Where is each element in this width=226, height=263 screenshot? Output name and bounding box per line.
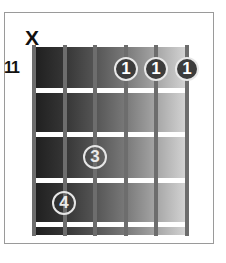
finger-dot-1: 1	[175, 57, 199, 81]
string-3	[93, 45, 97, 236]
fret-line-4	[33, 222, 189, 227]
finger-label: 3	[90, 147, 99, 167]
string-1	[32, 45, 36, 236]
finger-label: 1	[182, 59, 191, 79]
fret-line-3	[33, 178, 189, 183]
finger-dot-1: 1	[114, 57, 138, 81]
fret-line-2	[33, 132, 189, 137]
finger-dot-1: 1	[144, 57, 168, 81]
fret-line-1	[33, 88, 189, 93]
finger-dot-3: 3	[83, 145, 107, 169]
finger-dot-4: 4	[52, 191, 76, 215]
fret-number-label: 11	[4, 60, 19, 76]
finger-label: 4	[59, 193, 68, 213]
finger-label: 1	[121, 59, 130, 79]
finger-label: 1	[151, 59, 160, 79]
